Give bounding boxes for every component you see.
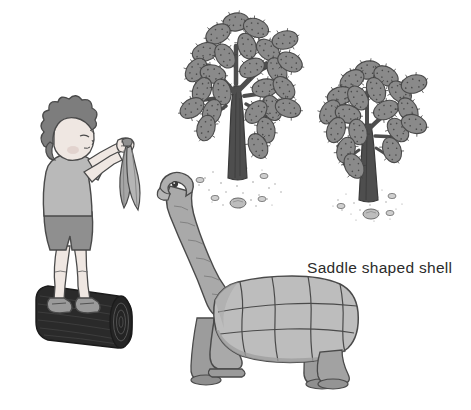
boy-head <box>41 96 97 161</box>
boy-cheek <box>67 146 79 154</box>
saddle-shaped-shell-label: Saddle shaped shell <box>307 259 452 277</box>
illustration-canvas: Saddle shaped shell <box>0 0 471 410</box>
boy-shorts <box>44 212 93 250</box>
tortoise-eye <box>172 181 178 187</box>
tortoise-shell <box>214 276 359 362</box>
illustration-svg <box>0 0 471 410</box>
